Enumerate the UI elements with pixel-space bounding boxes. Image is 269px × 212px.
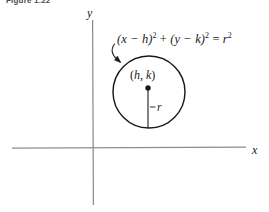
center-point-dot — [145, 85, 150, 90]
equation-plus-operator: + — [157, 32, 171, 46]
x-axis — [12, 147, 246, 148]
equation-equals-sign: = — [209, 32, 223, 46]
circle-equation-label: (x − h)2 + (y − k)2 = r2 — [117, 32, 232, 47]
equation-pointer-arrowhead — [115, 56, 121, 63]
center-label-close-paren: ) — [151, 68, 155, 82]
equation-right-term-exponent: 2 — [228, 31, 232, 40]
y-axis — [93, 20, 94, 205]
circle-center-label: (h, k) — [130, 68, 155, 83]
circle-shape — [113, 56, 185, 128]
radius-label: r — [157, 101, 161, 113]
axis-label-x: x — [252, 143, 257, 158]
equation-left-term-1: (x − h) — [117, 32, 153, 46]
equation-left-term-2: (y − k) — [170, 32, 205, 46]
axis-label-y: y — [87, 6, 92, 21]
figure-container: Figure 1.22 y x (x − h)2 + (y − k)2 = r2… — [0, 0, 269, 212]
